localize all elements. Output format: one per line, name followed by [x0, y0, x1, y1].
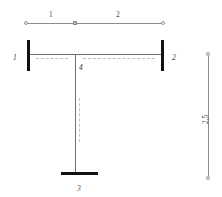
support-bottom — [61, 172, 98, 175]
column-centerline — [79, 98, 80, 142]
support-right-label: 2 — [172, 54, 176, 62]
vertical-column — [75, 54, 76, 173]
node-center-label: 4 — [79, 64, 83, 72]
circle-node-top — [206, 52, 210, 56]
dimension-label-segment-1: 1 — [49, 11, 53, 19]
dimension-label-segment-2: 2 — [116, 11, 120, 19]
square-node-middle — [73, 21, 77, 25]
height-dimension-label: 2,5 — [202, 115, 210, 124]
support-left — [27, 40, 30, 71]
beam-centerline-right — [83, 58, 155, 59]
dimension-segment-1-line — [27, 23, 75, 24]
support-bottom-label: 3 — [77, 185, 81, 193]
frame-diagram: 1 2 1 2 3 4 2,5 — [0, 0, 222, 197]
support-right — [161, 40, 164, 71]
circle-node-left — [24, 21, 28, 25]
circle-node-right — [161, 21, 165, 25]
horizontal-beam — [29, 54, 163, 55]
dimension-segment-2-line — [75, 23, 163, 24]
support-left-label: 1 — [13, 54, 17, 62]
circle-node-bottom — [206, 176, 210, 180]
beam-centerline-left — [36, 58, 68, 59]
